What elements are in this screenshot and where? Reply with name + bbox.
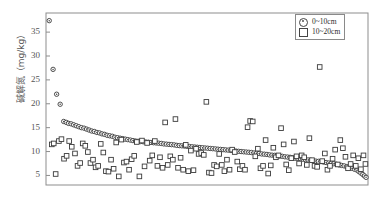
data-point-square xyxy=(145,141,150,146)
data-point-square xyxy=(132,154,137,159)
data-point-square xyxy=(209,171,214,176)
data-point-circle-center xyxy=(59,104,61,106)
data-point-square xyxy=(173,117,178,122)
data-point-square xyxy=(69,144,74,149)
data-point-square xyxy=(83,144,88,149)
data-point-square xyxy=(307,136,312,141)
data-point-square xyxy=(186,169,191,174)
data-point-square xyxy=(348,162,353,167)
data-point-square xyxy=(245,125,250,130)
data-point-square xyxy=(235,159,240,164)
data-point-square xyxy=(171,157,176,162)
data-point-square xyxy=(266,171,271,176)
data-point-square xyxy=(253,154,258,159)
data-point-square xyxy=(315,165,320,170)
data-point-square xyxy=(78,161,83,166)
data-point-square xyxy=(225,157,230,162)
data-point-square xyxy=(189,148,194,153)
data-point-square xyxy=(140,138,145,143)
data-point-square xyxy=(119,137,124,142)
data-point-square xyxy=(243,167,248,172)
data-point-square xyxy=(279,126,284,131)
data-point-square xyxy=(111,166,116,171)
data-point-square xyxy=(53,172,58,177)
data-point-square xyxy=(201,153,206,158)
data-point-square xyxy=(178,155,183,160)
data-point-square xyxy=(137,174,142,179)
data-point-square xyxy=(330,156,335,161)
series-10-20cm xyxy=(49,65,367,179)
circle-marker-icon xyxy=(299,18,308,27)
data-point-square xyxy=(86,150,91,155)
data-point-square xyxy=(343,155,348,160)
data-point-square xyxy=(73,151,78,156)
chart-legend: 0~10cm 10~20cm xyxy=(295,14,345,40)
legend-item-10-20cm: 10~20cm xyxy=(299,27,340,37)
data-point-square xyxy=(214,164,219,169)
data-point-square xyxy=(268,163,273,168)
data-point-square xyxy=(158,155,163,160)
data-point-square xyxy=(96,164,101,169)
data-point-square xyxy=(292,139,297,144)
data-point-square xyxy=(142,164,147,169)
data-point-square xyxy=(351,153,356,158)
data-point-square xyxy=(353,164,358,169)
data-point-square xyxy=(59,137,64,142)
data-point-square xyxy=(67,139,72,144)
data-point-square xyxy=(335,162,340,167)
data-point-square xyxy=(181,167,186,172)
data-point-square xyxy=(305,163,310,168)
data-point-square xyxy=(320,159,325,164)
data-point-square xyxy=(163,120,168,125)
data-point-square xyxy=(150,153,155,158)
data-point-square xyxy=(289,156,294,161)
data-point-square xyxy=(276,153,281,158)
data-point-square xyxy=(294,154,299,159)
data-point-square xyxy=(363,162,368,167)
data-point-square xyxy=(165,163,170,168)
data-point-square xyxy=(227,167,232,172)
data-point-square xyxy=(222,169,227,174)
legend-item-0-10cm: 0~10cm xyxy=(299,17,340,27)
data-point-square xyxy=(328,164,333,169)
data-point-square xyxy=(153,139,158,144)
data-point-square xyxy=(271,145,276,150)
data-point-square xyxy=(250,119,255,124)
data-point-square xyxy=(64,154,69,159)
data-point-square xyxy=(106,169,111,174)
square-marker-icon xyxy=(299,28,308,37)
data-point-square xyxy=(297,161,302,166)
legend-label-0-10cm: 0~10cm xyxy=(312,17,336,27)
data-point-circle-center xyxy=(365,177,367,179)
data-point-square xyxy=(91,157,96,162)
data-point-square xyxy=(261,164,266,169)
data-point-square xyxy=(114,140,119,145)
data-point-square xyxy=(302,155,307,160)
data-point-square xyxy=(127,167,132,172)
data-point-square xyxy=(220,163,225,168)
data-point-square xyxy=(317,65,322,70)
data-point-square xyxy=(341,146,346,151)
data-point-square xyxy=(191,168,196,173)
data-point-square xyxy=(109,157,114,162)
data-point-square xyxy=(176,166,181,171)
data-point-square xyxy=(98,142,103,147)
legend-label-10-20cm: 10~20cm xyxy=(312,27,340,37)
chart-figure: 碱解氮（mg/kg） 5101520253035 0~10cm 10~20cm xyxy=(0,0,376,199)
data-point-square xyxy=(204,100,209,105)
data-point-square xyxy=(124,159,129,164)
data-point-square xyxy=(333,147,338,152)
data-point-square xyxy=(147,158,152,163)
data-point-circle-center xyxy=(48,20,50,22)
data-point-circle-center xyxy=(56,93,58,95)
data-point-square xyxy=(194,146,199,151)
data-point-square xyxy=(338,138,343,143)
data-point-square xyxy=(155,164,160,169)
data-point-square xyxy=(101,150,106,155)
data-point-square xyxy=(361,153,366,158)
data-point-square xyxy=(116,174,121,179)
data-point-square xyxy=(183,143,188,148)
data-point-square xyxy=(135,140,140,145)
data-point-square xyxy=(263,138,268,143)
data-point-circle-center xyxy=(52,69,54,71)
